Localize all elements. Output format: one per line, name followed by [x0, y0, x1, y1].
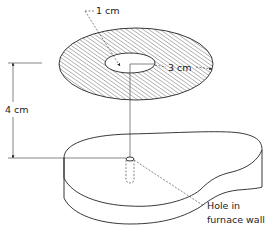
hole-label-line1: Hole in — [207, 200, 240, 211]
hole-label-line2: furnace wall — [207, 214, 265, 225]
hole-in-furnace-wall — [126, 157, 134, 183]
annulus-width-label: 3 cm — [168, 62, 192, 73]
furnace-hole-disk-diagram: 1 cm 3 cm 4 cm Hole in furnace wall — [0, 0, 271, 232]
height-label: 4 cm — [5, 104, 29, 115]
hole-label-leader — [134, 160, 204, 206]
inner-radius-label: 1 cm — [96, 5, 120, 16]
